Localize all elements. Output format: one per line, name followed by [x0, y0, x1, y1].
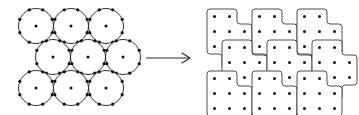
tile-lattice-dot	[288, 92, 291, 95]
packed-circle	[53, 8, 89, 44]
tile-lattice-dot	[258, 92, 261, 95]
tile-lattice-dot	[333, 46, 336, 49]
circle-packing-group	[18, 8, 141, 106]
tile-lattice-dot	[303, 30, 306, 33]
tile-lattice-dot	[333, 30, 336, 33]
circle-center-dot	[105, 25, 108, 28]
tile-lattice-dot	[243, 46, 246, 49]
circle-boundary-mark	[41, 103, 44, 106]
tile-lattice-dot	[288, 61, 291, 64]
tile-lattice-dot	[318, 61, 321, 64]
circle-boundary-mark	[76, 70, 79, 73]
packed-circle	[18, 8, 54, 44]
circle-boundary-mark	[70, 62, 73, 65]
circle-boundary-mark	[76, 103, 79, 106]
circle-boundary-mark	[111, 70, 114, 73]
tile-lattice-dot	[258, 45, 261, 48]
tile-lattice-dot	[273, 61, 276, 64]
tile-lattice-dot	[333, 92, 336, 95]
circle-boundary-mark	[105, 62, 108, 65]
packed-circle	[70, 39, 106, 75]
tile-lattice-dot	[318, 30, 321, 33]
circle-boundary-mark	[53, 31, 56, 34]
circle-boundary-mark	[58, 39, 61, 42]
circle-boundary-mark	[115, 39, 118, 42]
tile-lattice-dot	[303, 77, 306, 80]
tile-lattice-dot	[228, 107, 231, 110]
circle-boundary-mark	[18, 93, 21, 96]
tile-lattice-dot	[303, 92, 306, 95]
circle-boundary-mark	[88, 93, 91, 96]
circle-boundary-mark	[28, 70, 31, 73]
tile-lattice-dot	[273, 92, 276, 95]
circle-boundary-mark	[93, 39, 96, 42]
tile-lattice-dot	[303, 45, 306, 48]
circle-boundary-mark	[28, 103, 31, 106]
tile-lattice-dot	[243, 92, 246, 95]
math-figure	[0, 0, 359, 115]
tile-lattice-dot	[273, 15, 276, 18]
tile-lattice-dot	[228, 15, 231, 18]
tile-lattice-dot	[228, 46, 231, 49]
circle-boundary-mark	[18, 80, 21, 83]
tile-lattice-dot	[333, 107, 336, 110]
circle-center-dot	[52, 56, 55, 59]
tile-lattice-dot	[318, 77, 321, 80]
circle-boundary-mark	[53, 93, 56, 96]
circle-boundary-mark	[63, 8, 66, 11]
tile-lattice-dot	[333, 61, 336, 64]
circle-center-dot	[70, 25, 73, 28]
tile-lattice-dot	[243, 30, 246, 33]
packed-circle	[35, 39, 71, 75]
tile-lattice-dot	[213, 30, 216, 33]
circle-boundary-mark	[138, 62, 141, 65]
tile-lattice-dot	[228, 77, 231, 80]
circle-boundary-mark	[111, 8, 114, 11]
circle-boundary-mark	[53, 18, 56, 21]
circle-boundary-mark	[76, 8, 79, 11]
tile-lattice-dot	[303, 15, 306, 18]
circle-boundary-mark	[105, 49, 108, 52]
tile-lattice-dot	[243, 76, 246, 79]
digital-disk-tiling-group	[207, 9, 357, 115]
circle-boundary-mark	[128, 39, 131, 42]
circle-boundary-mark	[88, 31, 91, 34]
circle-boundary-mark	[128, 72, 131, 75]
circle-boundary-mark	[41, 70, 44, 73]
circle-boundary-mark	[98, 8, 101, 11]
tile-lattice-dot	[258, 107, 261, 110]
circle-boundary-mark	[41, 8, 44, 11]
tile-lattice-dot	[228, 30, 231, 33]
circle-center-dot	[105, 87, 108, 90]
tile-lattice-dot	[213, 107, 216, 110]
figure-container	[0, 0, 359, 115]
circle-boundary-mark	[121, 80, 124, 83]
packed-circle	[88, 8, 124, 44]
tile-lattice-dot	[273, 77, 276, 80]
circle-boundary-mark	[111, 103, 114, 106]
tile-lattice-dot	[258, 77, 261, 80]
circle-boundary-mark	[28, 41, 31, 44]
circle-boundary-mark	[18, 31, 21, 34]
transformation-arrow	[146, 53, 190, 63]
circle-boundary-mark	[35, 49, 38, 52]
circle-center-dot	[70, 87, 73, 90]
packed-circle	[105, 39, 141, 75]
circle-boundary-mark	[18, 18, 21, 21]
tile-lattice-dot	[273, 46, 276, 49]
circle-center-dot	[35, 25, 38, 28]
tile-lattice-dot	[258, 61, 261, 64]
tile-lattice-dot	[348, 61, 351, 64]
circle-boundary-mark	[28, 8, 31, 11]
tile-lattice-dot	[213, 77, 216, 80]
tile-lattice-dot	[273, 107, 276, 110]
circle-center-dot	[35, 87, 38, 90]
tile-lattice-dot	[273, 30, 276, 33]
tile-lattice-dot	[288, 107, 291, 110]
circle-boundary-mark	[45, 39, 48, 42]
circle-boundary-mark	[70, 49, 73, 52]
tile-lattice-dot	[318, 107, 321, 110]
circle-boundary-mark	[98, 70, 101, 73]
tile-lattice-dot	[318, 92, 321, 95]
tile-lattice-dot	[303, 107, 306, 110]
